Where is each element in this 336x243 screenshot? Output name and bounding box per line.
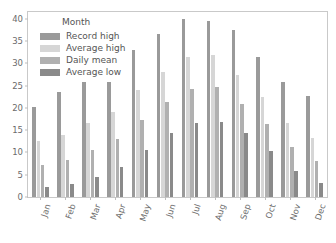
- bar: [265, 124, 269, 197]
- x-axis-tick-label: Aug: [214, 203, 227, 221]
- legend-item-label: Average high: [66, 44, 125, 53]
- legend-title: Month: [62, 18, 125, 28]
- bar: [161, 72, 165, 197]
- bar: [236, 75, 240, 197]
- legend-item[interactable]: Average low: [40, 67, 125, 78]
- x-axis-tick-label: Jul: [191, 203, 202, 215]
- bar: [157, 34, 161, 197]
- x-axis-tick-label: Nov: [288, 203, 301, 221]
- bar: [311, 138, 315, 197]
- bar: [32, 107, 36, 197]
- bar: [136, 90, 140, 197]
- legend-item[interactable]: Daily mean: [40, 55, 125, 66]
- x-axis-tick-mark: [315, 197, 316, 200]
- bar: [315, 161, 319, 197]
- x-axis-tick-label: Oct: [264, 203, 277, 220]
- bar: [165, 102, 169, 197]
- x-axis-tick-label: Jun: [165, 203, 177, 218]
- legend-item-label: Average low: [66, 68, 121, 77]
- x-axis-tick-mark: [240, 197, 241, 200]
- y-axis-tick-mark: [25, 85, 28, 86]
- y-axis-tick-mark: [25, 18, 28, 19]
- bar: [45, 187, 49, 197]
- bar: [290, 147, 294, 197]
- bar: [132, 50, 136, 197]
- y-axis-tick-mark: [25, 130, 28, 131]
- bar: [306, 96, 310, 197]
- y-axis-tick-mark: [25, 107, 28, 108]
- x-axis-tick-mark: [90, 197, 91, 200]
- bar: [232, 30, 236, 197]
- x-axis-tick-label: May: [139, 203, 153, 222]
- bar: [240, 104, 244, 197]
- x-axis-tick-mark: [40, 197, 41, 200]
- bar: [182, 19, 186, 197]
- x-axis-tick-mark: [65, 197, 66, 200]
- bar: [82, 82, 86, 197]
- bar: [190, 89, 194, 197]
- y-axis-tick-mark: [25, 63, 28, 64]
- bar: [256, 57, 260, 197]
- x-axis-tick-label: Feb: [65, 203, 78, 220]
- bar: [66, 160, 70, 197]
- bar: [170, 133, 174, 197]
- x-axis-tick-mark: [140, 197, 141, 200]
- bar: [145, 150, 149, 197]
- x-axis-tick-label: Jan: [40, 203, 52, 218]
- x-axis-tick-mark: [115, 197, 116, 200]
- legend-swatch-icon: [40, 57, 60, 64]
- bar: [95, 177, 99, 197]
- bar: [294, 171, 298, 197]
- bar: [140, 120, 144, 197]
- x-axis-tick-label: Apr: [115, 203, 128, 220]
- x-axis-tick-label: Mar: [89, 203, 102, 221]
- y-axis-tick-mark: [25, 174, 28, 175]
- bar-chart-figure: 0510152025303540 JanFebMarAprMayJunJulAu…: [0, 0, 336, 243]
- bar: [211, 55, 215, 197]
- bar: [86, 123, 90, 197]
- x-axis-tick-label: Dec: [313, 203, 326, 221]
- bar: [120, 167, 124, 197]
- x-axis-tick-mark: [190, 197, 191, 200]
- bar: [195, 123, 199, 197]
- x-axis-tick-label: Sep: [239, 203, 252, 221]
- bar: [91, 150, 95, 197]
- legend-item-label: Record high: [66, 32, 120, 41]
- x-axis-tick-mark: [165, 197, 166, 200]
- legend-swatch-icon: [40, 45, 60, 52]
- bar: [37, 141, 41, 197]
- legend-item[interactable]: Average high: [40, 43, 125, 54]
- bar: [107, 82, 111, 197]
- legend-items: Record highAverage highDaily meanAverage…: [40, 31, 125, 78]
- bar: [261, 97, 265, 197]
- bar: [244, 133, 248, 197]
- bar: [220, 122, 224, 197]
- bar: [319, 183, 323, 197]
- bar: [186, 57, 190, 197]
- bar: [269, 151, 273, 197]
- legend: Month Record highAverage highDaily meanA…: [38, 16, 129, 82]
- x-axis-tick-mark: [215, 197, 216, 200]
- legend-item-label: Daily mean: [66, 56, 117, 65]
- bar: [70, 184, 74, 197]
- bar: [111, 112, 115, 197]
- x-axis-tick-mark: [265, 197, 266, 200]
- x-axis-tick-mark: [290, 197, 291, 200]
- y-axis-tick-mark: [25, 152, 28, 153]
- bar: [41, 165, 45, 197]
- bar: [116, 139, 120, 197]
- y-axis-tick-mark: [25, 40, 28, 41]
- legend-swatch-icon: [40, 33, 60, 40]
- bar: [286, 123, 290, 197]
- bar: [281, 82, 285, 197]
- legend-item[interactable]: Record high: [40, 31, 125, 42]
- bar: [61, 135, 65, 197]
- bar: [215, 87, 219, 197]
- y-axis-tick-mark: [25, 197, 28, 198]
- legend-swatch-icon: [40, 69, 60, 76]
- bar: [207, 21, 211, 197]
- bar: [57, 92, 61, 197]
